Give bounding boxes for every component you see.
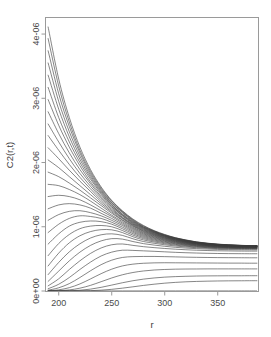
y-axis-title: C2(r,t) bbox=[4, 142, 15, 168]
x-axis-title: r bbox=[150, 319, 153, 330]
chart-figure: 200250300350 0e+001e-062e-063e-064e-06 r… bbox=[0, 0, 271, 337]
y-tick-label: 2e-06 bbox=[31, 151, 41, 174]
y-tick-label: 1e-06 bbox=[31, 215, 41, 238]
y-tick-label: 0e+00 bbox=[31, 278, 41, 303]
line-chart-svg: 200250300350 0e+001e-062e-063e-064e-06 r… bbox=[0, 0, 271, 337]
x-tick-label: 300 bbox=[157, 298, 172, 308]
x-tick-label: 200 bbox=[51, 298, 66, 308]
x-tick-label: 250 bbox=[104, 298, 119, 308]
x-tick-label: 350 bbox=[210, 298, 225, 308]
y-tick-label: 3e-06 bbox=[31, 87, 41, 110]
y-tick-label: 4e-06 bbox=[31, 23, 41, 46]
